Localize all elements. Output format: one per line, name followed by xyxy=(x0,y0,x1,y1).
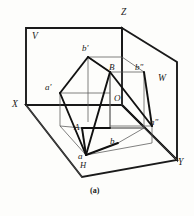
label-z-axis: Z xyxy=(121,8,126,18)
h-plane-outline xyxy=(26,105,177,177)
projection-drawing xyxy=(0,0,194,216)
construction-depth-right xyxy=(144,128,177,160)
label-y-axis: Y xyxy=(178,158,183,168)
label-point-a-side: a" xyxy=(150,118,158,127)
front-projection-ab xyxy=(60,57,88,93)
figure-caption: (a) xyxy=(90,186,99,195)
label-origin: O xyxy=(114,94,121,103)
label-point-a-top: a xyxy=(78,152,83,161)
w-plane-outline xyxy=(122,28,177,160)
v-plane-outline xyxy=(26,28,122,105)
label-point-b-front: b' xyxy=(82,44,88,53)
label-v-plane: V xyxy=(32,32,38,42)
label-point-a-front: a' xyxy=(45,83,51,92)
label-point-B-space: B xyxy=(109,63,115,72)
space-line-AB xyxy=(86,72,110,155)
front-projection-edge xyxy=(88,57,110,72)
label-point-b-top: b xyxy=(110,137,115,146)
label-point-A-space: A xyxy=(74,123,80,132)
construction-a-to-adouble xyxy=(86,143,152,155)
label-point-b-side: b" xyxy=(135,63,143,72)
label-w-plane: W xyxy=(158,74,166,84)
figure-container: Z X Y O V W H b' a' B b" a" A b a (a) xyxy=(0,0,194,216)
projector-aprime-a xyxy=(60,93,86,155)
label-x-axis: X xyxy=(12,100,18,110)
label-h-plane: H xyxy=(80,161,86,170)
